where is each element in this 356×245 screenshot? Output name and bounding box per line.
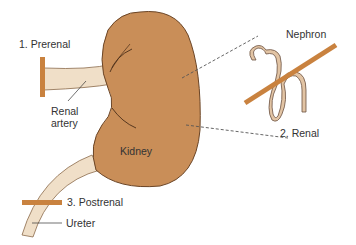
postrenal-label: 3. Postrenal [67,196,123,208]
kidney-label: Kidney [120,145,152,157]
nephron-label: Nephron [286,28,326,40]
prerenal-blockage-bar [40,57,45,97]
postrenal-blockage-bar [22,200,62,205]
ureter-label: Ureter [66,217,95,229]
renal-artery-label-line2: artery [51,117,78,129]
prerenal-label: 1. Prerenal [19,38,70,50]
renal-label: 2. Renal [280,127,319,139]
zoom-line-bottom [186,125,288,138]
kidney [93,11,200,186]
renal-artery [44,64,112,90]
renal-blockage-bar [245,45,336,103]
renal-artery-label-line1: Renal [51,105,78,117]
